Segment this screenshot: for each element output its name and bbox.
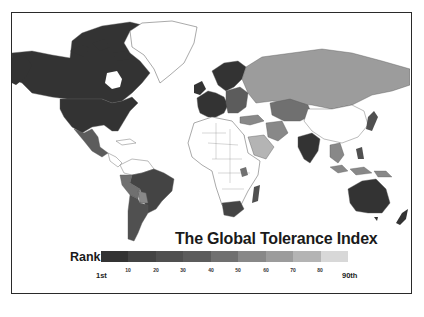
legend-end-label: 90th [342,271,357,280]
legend-swatch-5 [211,251,238,262]
legend-swatch-9 [321,251,348,262]
region-iran [266,121,288,141]
legend-tick: 40 [208,267,214,273]
legend-rank-label: Rank [70,250,101,264]
legend-tick: 60 [263,267,269,273]
legend-swatch-7 [266,251,293,262]
legend-swatch-1 [101,251,128,262]
legend-swatch-2 [128,251,155,262]
legend-tick: 30 [180,267,186,273]
region-australia [348,179,390,213]
world-map [12,13,410,245]
legend-swatch-4 [183,251,210,262]
legend-swatch-8 [293,251,320,262]
region-western-europe [197,91,228,117]
region-scandinavia [212,61,246,91]
region-southeast-asia [330,143,344,163]
region-eastern-europe [226,87,248,113]
region-philippines [356,147,364,159]
region-turkey [240,115,264,125]
region-new-zealand [396,209,408,225]
legend-start-label: 1st [96,271,107,280]
region-russia [242,49,410,109]
region-africa [188,117,260,213]
legend-swatch-6 [238,251,265,262]
legend-tick: 80 [317,267,323,273]
region-mexico [74,129,108,157]
region-usa [60,97,138,133]
map-title: The Global Tolerance Index [175,230,378,248]
legend-tick: 20 [153,267,159,273]
region-indonesia [330,165,392,177]
legend-tick: 50 [235,267,241,273]
legend-tick: 10 [125,267,131,273]
region-canada [12,22,150,103]
region-south-africa [222,201,244,217]
legend-tick: 70 [290,267,296,273]
legend-color-scale [101,251,348,262]
legend-swatch-3 [156,251,183,262]
region-india [298,133,320,163]
region-madagascar [252,185,260,203]
region-japan [366,111,378,131]
